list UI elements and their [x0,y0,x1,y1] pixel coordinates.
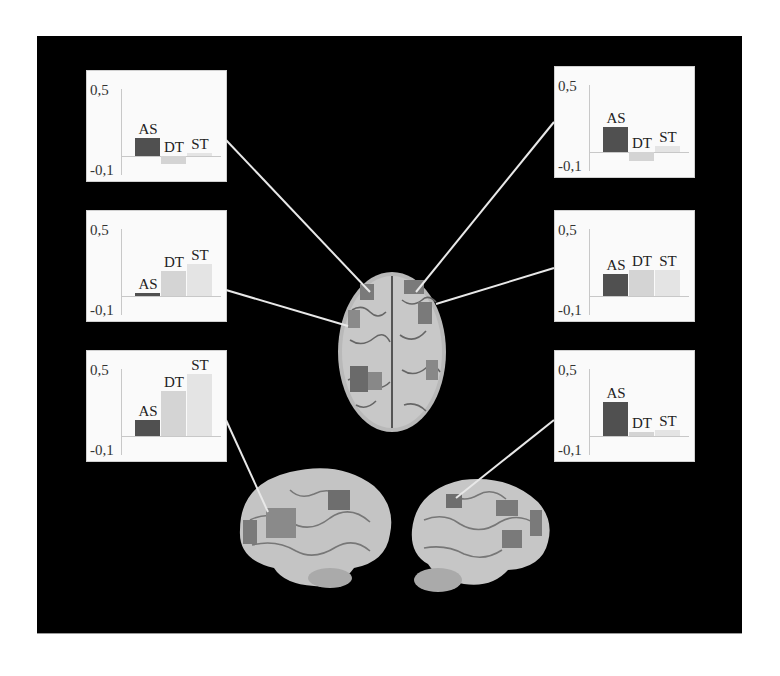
bar-st [655,430,680,437]
bar-as [135,293,160,296]
zero-line [589,436,689,437]
bar-st [187,374,212,436]
y-axis [589,369,590,455]
bar-label-st: ST [180,137,220,152]
bar-dt [161,156,186,164]
y-tick-label-top: 0,5 [90,223,109,238]
zero-line [121,436,221,437]
y-axis [121,89,122,175]
y-axis [589,85,590,171]
bar-dt [629,152,654,161]
y-tick-label-bottom: -0,1 [558,443,582,458]
y-tick-label-top: 0,5 [558,223,577,238]
y-tick-label-bottom: -0,1 [558,303,582,318]
bar-st [655,146,680,153]
zero-line [121,296,221,297]
y-tick-label-bottom: -0,1 [90,163,114,178]
bar-label-st: ST [180,358,220,373]
bar-st [655,270,680,296]
y-tick-label-top: 0,5 [90,83,109,98]
bar-label-st: ST [648,414,688,429]
bar-label-as: AS [596,111,636,126]
bar-as [135,420,160,436]
bar-dt [161,271,186,296]
y-tick-label-bottom: -0,1 [90,443,114,458]
y-tick-label-top: 0,5 [558,79,577,94]
y-tick-label-top: 0,5 [558,363,577,378]
chart-panel-right-middle: 0,5-0,1ASDTST [554,210,695,322]
zero-line [589,296,689,297]
y-axis [121,229,122,315]
bar-label-st: ST [180,248,220,263]
y-tick-label-bottom: -0,1 [90,303,114,318]
bar-label-st: ST [648,254,688,269]
bar-label-st: ST [648,130,688,145]
chart-panel-left-top: 0,5-0,1ASDTST [86,70,227,182]
y-tick-label-bottom: -0,1 [558,159,582,174]
chart-panel-right-top: 0,5-0,1ASDTST [554,66,695,178]
chart-panel-left-bottom: 0,5-0,1ASDTST [86,350,227,462]
bar-dt [161,391,186,437]
bar-st [187,264,212,297]
bar-dt [629,270,654,296]
bar-dt [629,432,654,436]
bar-st [187,153,212,156]
chart-panel-right-bottom: 0,5-0,1ASDTST [554,350,695,462]
bar-label-as: AS [128,122,168,137]
bar-as [603,274,628,296]
bar-label-as: AS [596,386,636,401]
y-tick-label-top: 0,5 [90,363,109,378]
y-axis [121,369,122,455]
y-axis [589,229,590,315]
chart-panel-left-middle: 0,5-0,1ASDTST [86,210,227,322]
